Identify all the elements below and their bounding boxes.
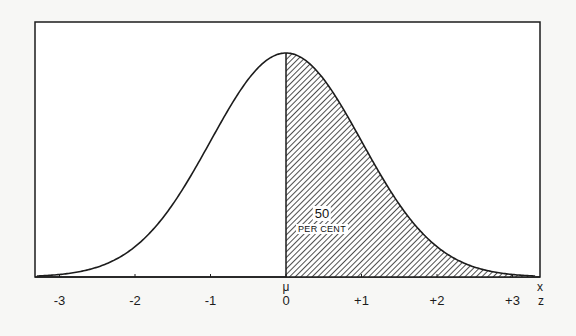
x-tick-label: -3 <box>54 293 66 308</box>
x-tick-label: -2 <box>129 293 141 308</box>
x-variable-label: x <box>537 280 543 294</box>
x-tick-label: +3 <box>505 293 520 308</box>
annotation-value: 50 <box>313 206 331 221</box>
x-tick-label: 0 <box>282 293 289 308</box>
annotation-unit: PER CENT <box>296 224 348 234</box>
z-variable-label: z <box>538 294 544 308</box>
x-tick-label: -1 <box>205 293 217 308</box>
mean-label: μ <box>283 280 290 294</box>
x-tick-label: +2 <box>430 293 445 308</box>
x-tick-label: +1 <box>354 293 369 308</box>
